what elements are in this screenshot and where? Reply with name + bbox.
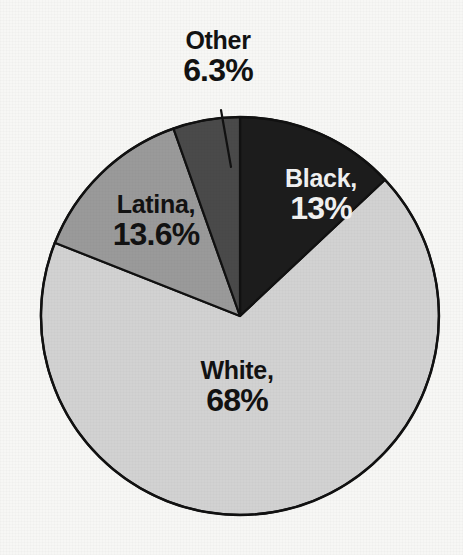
slice-label-latina-name: Latina, (86, 192, 226, 218)
slice-label-white-name: White, (172, 358, 302, 384)
pie-chart-figure: Other 6.3% Black, 13% Latina, 13.6% Whit… (0, 0, 463, 555)
slice-label-other-name: Other (148, 28, 288, 54)
slice-label-latina-value: 13.6% (86, 218, 226, 251)
slice-label-other: Other 6.3% (148, 28, 288, 86)
slice-label-other-value: 6.3% (148, 54, 288, 87)
slice-label-white: White, 68% (172, 358, 302, 416)
slice-label-black-name: Black, (262, 166, 380, 192)
slice-label-white-value: 68% (172, 384, 302, 417)
slice-label-black: Black, 13% (262, 166, 380, 224)
slice-label-latina: Latina, 13.6% (86, 192, 226, 250)
slice-label-black-value: 13% (262, 192, 380, 225)
